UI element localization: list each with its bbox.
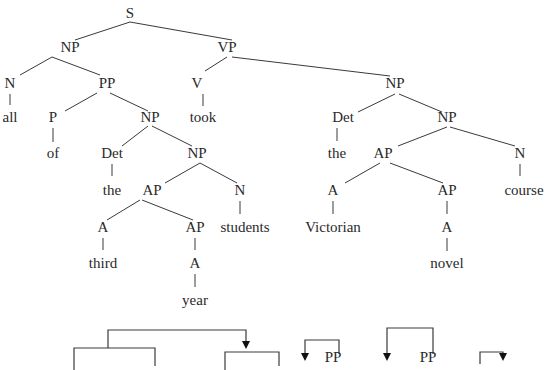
node-ap1: AP [142, 182, 161, 198]
node-np1: NP [60, 39, 79, 55]
node-n2: N [235, 182, 246, 198]
outer-arc [108, 330, 246, 348]
tree-edge [107, 200, 140, 220]
tree-node-labels: SNPVPNallPPPofNPDettheNPAPNstudentsAthir… [3, 5, 544, 365]
tree-edge [450, 127, 515, 146]
tree-edge [345, 163, 380, 183]
node-det2: Det [332, 109, 354, 125]
node-course: course [504, 182, 543, 198]
tree-edges [10, 22, 520, 287]
node-vp: VP [217, 39, 236, 55]
dependency-brackets [74, 328, 507, 370]
node-students: students [220, 219, 269, 235]
node-a3: A [328, 182, 339, 198]
node-ap4: AP [437, 182, 456, 198]
node-a1: A [98, 219, 109, 235]
node-year: year [182, 292, 208, 308]
node-all: all [3, 109, 18, 125]
node-a4: A [442, 219, 453, 235]
tree-edge [20, 57, 52, 75]
node-of: of [47, 145, 60, 161]
tree-edge [398, 127, 447, 146]
tree-edge [130, 22, 232, 40]
node-n3: N [515, 145, 526, 161]
node-the1: the [103, 182, 122, 198]
tree-edge [122, 126, 148, 146]
node-pp_b2: PP [420, 349, 437, 365]
node-v: V [192, 75, 203, 91]
node-np3: NP [187, 145, 206, 161]
tree-edge [390, 163, 443, 183]
node-s: S [126, 5, 134, 21]
tree-edge [152, 126, 192, 146]
node-victorian: Victorian [305, 219, 361, 235]
node-np5: NP [437, 109, 456, 125]
tree-edge [200, 163, 237, 183]
node-np2: NP [140, 109, 159, 125]
node-ap3: AP [373, 145, 392, 161]
node-np4: NP [385, 75, 404, 91]
syntax-tree-diagram: SNPVPNallPPPofNPDettheNPAPNstudentsAthir… [0, 0, 550, 370]
node-pp_b1: PP [325, 349, 342, 365]
tree-edge [75, 22, 130, 40]
arrowhead-icon [499, 353, 507, 361]
tree-edge [205, 57, 227, 71]
node-n1: N [5, 75, 16, 91]
node-third: third [89, 255, 118, 271]
tree-edge [399, 94, 442, 112]
node-pp: PP [99, 75, 116, 91]
tree-edge [142, 200, 193, 220]
left-arc [74, 348, 155, 370]
node-took: took [190, 109, 217, 125]
arrowhead-icon [301, 353, 309, 361]
node-the2: the [328, 145, 347, 161]
node-p: P [49, 109, 57, 125]
node-a2: A [190, 255, 201, 271]
node-novel: novel [430, 255, 463, 271]
tree-edge [358, 94, 395, 112]
tree-edge [65, 93, 97, 111]
tree-edge [165, 163, 200, 183]
right-arc [225, 352, 279, 370]
node-ap2: AP [185, 219, 204, 235]
arrowhead-icon [383, 353, 391, 361]
tree-edge [232, 57, 390, 76]
tree-edge [52, 57, 100, 75]
node-det1: Det [101, 145, 123, 161]
arrowhead-icon [242, 341, 250, 349]
